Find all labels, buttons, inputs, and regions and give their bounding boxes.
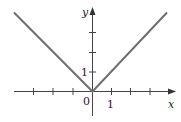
x-axis-label: x — [168, 98, 175, 111]
y-tick-label-1: 1 — [81, 66, 88, 79]
abs-value-graph: y x 0 1 1 — [0, 0, 181, 122]
origin-label: 0 — [83, 95, 90, 108]
y-axis-label: y — [81, 6, 89, 19]
y-axis-arrow-icon — [90, 7, 96, 15]
x-tick-label-1: 1 — [107, 98, 114, 111]
x-axis-arrow-icon — [168, 89, 176, 95]
